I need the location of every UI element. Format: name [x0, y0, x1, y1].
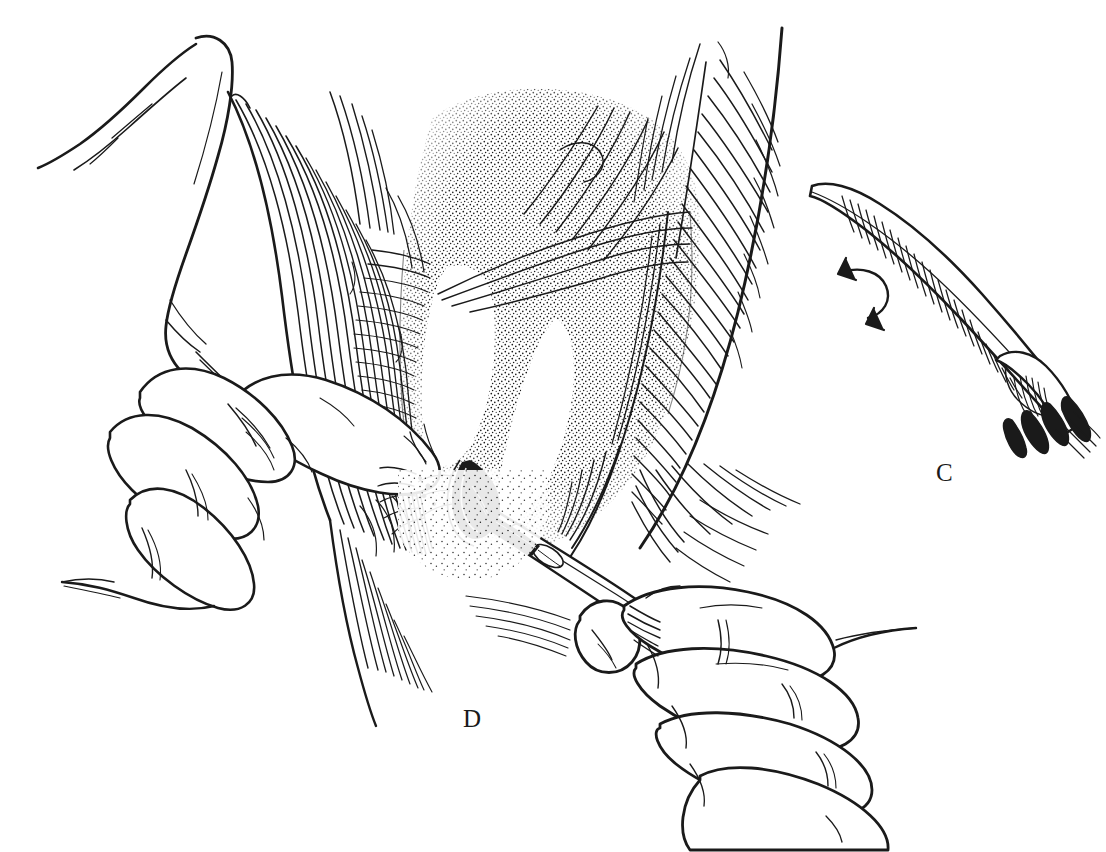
- panel-label-d: D: [463, 706, 482, 731]
- surgical-illustration-figure: C D: [0, 0, 1106, 852]
- panel-label-c: C: [936, 460, 953, 485]
- illustration-canvas: [0, 0, 1106, 852]
- wound-stipple-scatter: [398, 470, 548, 590]
